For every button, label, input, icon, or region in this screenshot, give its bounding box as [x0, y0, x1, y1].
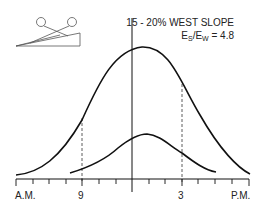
title-line1: 15 - 20% WEST SLOPE — [126, 16, 234, 29]
pm-label: P.M. — [231, 190, 250, 201]
tick-label-3: 3 — [178, 190, 184, 201]
tick-label-9: 9 — [78, 190, 84, 201]
large-curve — [16, 47, 250, 175]
ratio-line: ES/EW = 4.8 — [126, 29, 234, 45]
small-curve — [70, 134, 216, 173]
slope-sun-diagram-icon — [16, 18, 80, 47]
am-label: A.M. — [15, 190, 36, 201]
chart-title: 15 - 20% WEST SLOPE ES/EW = 4.8 — [126, 16, 234, 45]
